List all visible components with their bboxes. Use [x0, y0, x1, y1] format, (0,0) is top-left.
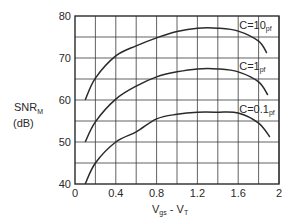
x-tick-label: 2	[276, 187, 282, 199]
y-tick-label: 70	[59, 52, 71, 64]
x-tick-label: 1.2	[190, 187, 205, 199]
curve-c-0-1pf	[85, 112, 270, 184]
y-axis-label: SNRM	[14, 101, 43, 115]
x-tick-label: 0.8	[149, 187, 164, 199]
curve-label: C=10pf	[239, 19, 272, 33]
snr-chart: 4050607080 00.40.81.21.62 SNRM (dB) Vgs …	[0, 0, 299, 224]
curve-label: C=0.1pf	[239, 103, 275, 117]
y-tick-label: 80	[59, 10, 71, 22]
x-tick-label: 0	[72, 187, 78, 199]
x-axis-label: Vgs - VT	[152, 203, 189, 217]
y-tick-label: 40	[59, 178, 71, 190]
x-axis-ticks: 00.40.81.21.62	[72, 187, 282, 199]
y-axis-ticks: 4050607080	[59, 10, 71, 190]
grid-lines	[75, 16, 279, 184]
x-tick-label: 1.6	[231, 187, 246, 199]
y-tick-label: 60	[59, 94, 71, 106]
x-tick-label: 0.4	[108, 187, 123, 199]
y-axis-unit: (dB)	[13, 117, 34, 129]
curve-label: C=1pf	[239, 60, 265, 74]
y-tick-label: 50	[59, 136, 71, 148]
